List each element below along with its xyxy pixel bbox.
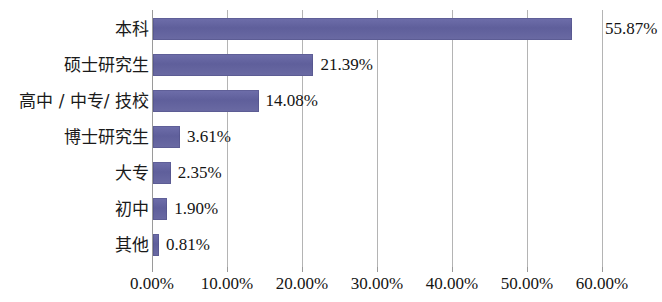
bar bbox=[153, 90, 259, 112]
category-label: 硕士研究生 bbox=[0, 54, 149, 76]
data-value-label: 0.81% bbox=[166, 234, 210, 256]
category-label: 其他 bbox=[0, 234, 149, 256]
gridline-60 bbox=[602, 10, 603, 267]
gridline-20 bbox=[302, 10, 303, 267]
category-label: 大专 bbox=[0, 162, 149, 184]
bar-chart: 本科 硕士研究生 高中 / 中专/ 技校 博士研究生 大专 初中 其他 55.8… bbox=[0, 0, 662, 302]
gridline-40 bbox=[452, 10, 453, 267]
xtick-60 bbox=[602, 267, 603, 272]
bar bbox=[153, 162, 171, 184]
xtick-label: 60.00% bbox=[576, 274, 628, 294]
xtick-label: 50.00% bbox=[501, 274, 553, 294]
xtick-50 bbox=[527, 267, 528, 272]
bar bbox=[153, 234, 159, 256]
xtick-10 bbox=[227, 267, 228, 272]
xtick-label: 0.00% bbox=[130, 274, 174, 294]
bar bbox=[153, 198, 167, 220]
data-value-label: 3.61% bbox=[187, 126, 231, 148]
category-label: 本科 bbox=[0, 18, 149, 40]
bar bbox=[153, 54, 313, 76]
xtick-label: 40.00% bbox=[426, 274, 478, 294]
xtick-label: 20.00% bbox=[276, 274, 328, 294]
gridline-30 bbox=[377, 10, 378, 267]
gridline-50 bbox=[527, 10, 528, 267]
data-value-label: 1.90% bbox=[174, 198, 218, 220]
xtick-label: 10.00% bbox=[201, 274, 253, 294]
xtick-0 bbox=[152, 267, 153, 272]
xtick-30 bbox=[377, 267, 378, 272]
xtick-label: 30.00% bbox=[351, 274, 403, 294]
data-value-label: 21.39% bbox=[320, 54, 372, 76]
data-value-label: 14.08% bbox=[266, 90, 318, 112]
category-label: 高中 / 中专/ 技校 bbox=[0, 90, 149, 112]
category-label: 博士研究生 bbox=[0, 126, 149, 148]
bar bbox=[153, 18, 572, 40]
data-value-label: 55.87% bbox=[605, 18, 657, 40]
data-value-label: 2.35% bbox=[178, 162, 222, 184]
xtick-40 bbox=[452, 267, 453, 272]
category-label: 初中 bbox=[0, 198, 149, 220]
bar bbox=[153, 126, 180, 148]
xtick-20 bbox=[302, 267, 303, 272]
